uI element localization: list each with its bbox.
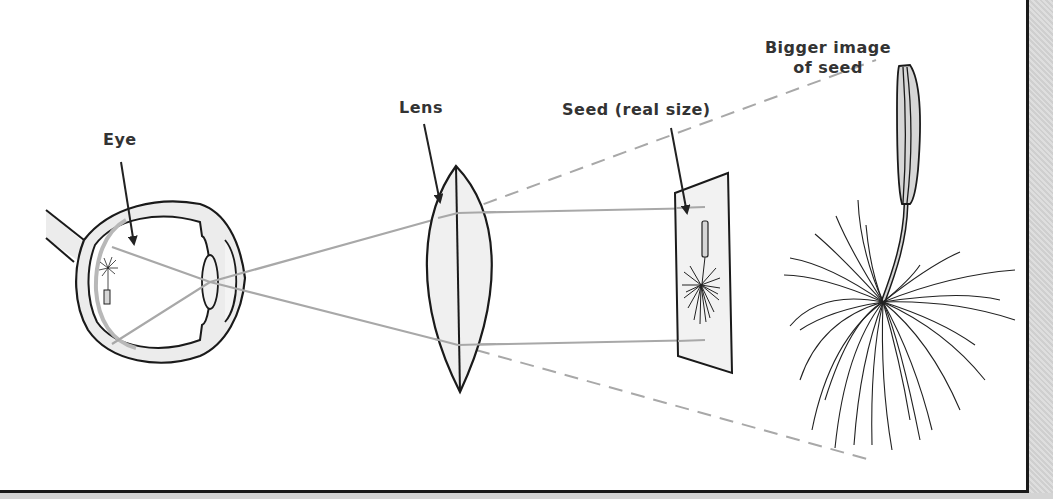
bigger-image-label-line2: of seed	[758, 58, 898, 78]
small-seed-icon	[702, 221, 708, 257]
bigger-image-label: Bigger image of seed	[758, 38, 898, 78]
seed-label: Seed (real size)	[562, 100, 711, 120]
eye-icon	[46, 201, 245, 362]
lens-label: Lens	[399, 98, 443, 118]
seed-slide	[675, 173, 732, 373]
eye-label: Eye	[103, 130, 137, 150]
bigger-image-label-line1: Bigger image	[758, 38, 898, 58]
projection-lines	[462, 60, 876, 461]
lens-icon	[427, 166, 496, 392]
big-seed-icon	[784, 65, 1015, 450]
